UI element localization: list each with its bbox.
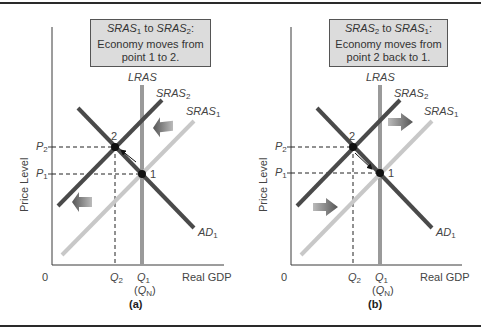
sras2-curve xyxy=(58,100,162,206)
origin-label: 0 xyxy=(281,271,287,283)
ad1-label: AD1 xyxy=(198,226,218,240)
y-axis-label: Price Level xyxy=(257,158,269,212)
q2-label: Q2 xyxy=(348,271,361,285)
annotation-box: SRAS1 to SRAS2: Economy moves from point… xyxy=(90,19,211,67)
sras1-curve xyxy=(301,121,432,255)
point-2-label: 2 xyxy=(111,130,117,142)
q2-label: Q2 xyxy=(110,271,123,285)
panel-b-tag: (b) xyxy=(368,298,382,310)
sras1-label: SRAS1 xyxy=(424,105,458,119)
equilibrium-point-2 xyxy=(349,143,357,151)
qn-label: (QN) xyxy=(372,284,394,298)
x-axis-label: Real GDP xyxy=(182,271,232,283)
point-1-label: 1 xyxy=(150,168,156,180)
sras1-label: SRAS1 xyxy=(186,105,220,119)
point-1-label: 1 xyxy=(388,167,394,179)
shift-left-arrow-bottom xyxy=(72,192,92,212)
shift-right-arrow-top xyxy=(388,113,413,131)
p1-label: P1 xyxy=(275,166,287,180)
shift-right-arrow-bottom xyxy=(313,198,338,216)
point-2-label: 2 xyxy=(349,130,355,142)
sras2-label: SRAS2 xyxy=(394,87,428,101)
annotation-line-2: Economy moves from xyxy=(334,38,443,51)
annotation-box: SRAS2 to SRAS1: Economy moves from point… xyxy=(329,19,448,67)
q1-label: Q1 xyxy=(137,271,150,285)
x-axis-label: Real GDP xyxy=(420,271,470,283)
sras2-label: SRAS2 xyxy=(156,87,190,101)
lras-label: LRAS xyxy=(366,71,395,83)
panel-a-tag: (a) xyxy=(129,298,142,310)
annotation-line-1: SRAS1 to SRAS2: xyxy=(95,22,206,38)
sras2-curve xyxy=(297,100,400,206)
annotation-line-3: point 2 back to 1. xyxy=(334,51,443,64)
p1-label: P1 xyxy=(36,167,48,181)
sras1-curve xyxy=(62,121,194,255)
equilibrium-point-1 xyxy=(138,170,146,178)
p2-label: P2 xyxy=(275,140,287,154)
annotation-line-1: SRAS2 to SRAS1: xyxy=(334,22,443,38)
shift-left-arrow-top xyxy=(153,116,173,138)
ad1-label: AD1 xyxy=(436,226,456,240)
origin-label: 0 xyxy=(42,271,48,283)
y-axis-label: Price Level xyxy=(18,158,30,212)
equilibrium-point-1 xyxy=(376,169,384,177)
p2-label: P2 xyxy=(36,140,48,154)
q1-label: Q1 xyxy=(375,271,388,285)
qn-label: (QN) xyxy=(134,284,156,298)
lras-label: LRAS xyxy=(128,71,157,83)
annotation-line-2: Economy moves from xyxy=(95,38,206,51)
equilibrium-point-2 xyxy=(111,143,119,151)
annotation-line-3: point 1 to 2. xyxy=(95,51,206,64)
